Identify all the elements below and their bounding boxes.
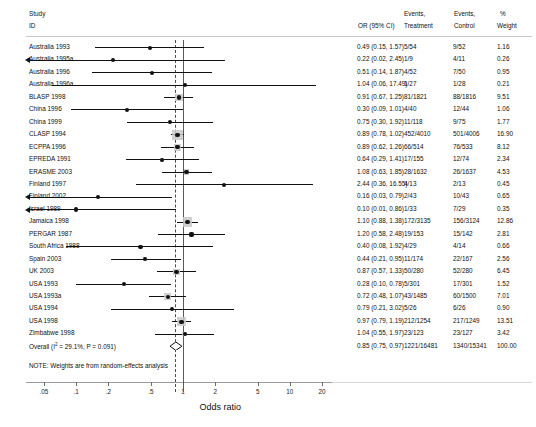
study-events-treatment: 212/1254 [404,317,431,324]
x-tick [76,382,77,386]
x-tick [151,382,152,386]
study-events-control: 7/29 [453,205,465,212]
study-or-ci: 0.79 (0.21, 3.02) [357,304,404,311]
study-label: UK 2003 [29,267,54,274]
study-events-control: 501/4006 [453,130,480,137]
study-events-control: 15/142 [453,230,473,237]
confidence-interval-line [30,60,225,61]
study-weight: 0.66 [497,242,509,249]
point-estimate-marker [183,83,187,87]
study-events-treatment: 4/29 [404,242,416,249]
overall-weight: 100.00 [497,342,517,349]
study-weight: 8.12 [497,143,509,150]
study-label: USA 1993 [29,280,58,287]
point-estimate-marker [179,320,183,324]
study-or-ci: 0.75 (0.30, 1.92) [357,118,404,125]
x-tick [322,382,323,386]
study-weight: 7.01 [497,292,509,299]
study-events-treatment: 5/301 [404,280,420,287]
x-axis-title: Odds ratio [200,402,242,412]
forest-plot-figure: Study ID OR (95% CI) Events, Treatment E… [0,0,536,427]
point-estimate-marker [185,220,189,224]
study-events-control: 156/3124 [453,217,480,224]
study-or-ci: 0.44 (0.21, 0.95) [357,255,404,262]
study-events-treatment: 1/9 [404,55,413,62]
x-tick [290,382,291,386]
study-events-treatment: 452/4010 [404,130,431,137]
study-weight: 1.77 [497,118,509,125]
study-events-treatment: 4/52 [404,68,416,75]
point-estimate-marker [184,170,188,174]
ci-arrow-left [25,207,30,213]
study-or-ci: 1.08 (0.63, 1.85) [357,168,404,175]
study-label: Australia 1996 [29,68,70,75]
overall-events-control: 1340/15341 [453,342,487,349]
study-events-treatment: 66/514 [404,143,424,150]
study-events-control: 2/13 [453,180,465,187]
study-or-ci: 0.22 (0.02, 2.45) [357,55,404,62]
study-label: China 1999 [29,118,62,125]
x-tick-label: .1 [74,388,79,395]
point-estimate-marker [74,207,78,211]
x-tick-label: .5 [148,388,153,395]
study-label: ECPPA 1996 [29,143,66,150]
study-or-ci: 0.89 (0.78, 1.02) [357,130,404,137]
study-events-control: 217/1249 [453,317,480,324]
study-or-ci: 0.51 (0.14, 1.87) [357,68,404,75]
point-estimate-marker [174,270,178,274]
x-tick-label: 20 [318,388,325,395]
study-events-control: 17/301 [453,280,473,287]
ci-arrow-left [25,194,30,200]
study-label: Zimbabwe 1998 [29,329,74,336]
confidence-interval-line [30,209,176,210]
point-estimate-marker [175,133,179,137]
study-events-treatment: 1/27 [404,80,416,87]
point-estimate-marker [111,58,115,62]
x-tick-label: .2 [106,388,111,395]
study-or-ci: 0.97 (0.79, 1.19) [357,317,404,324]
study-or-ci: 0.40 (0.08, 1.92) [357,242,404,249]
study-events-control: 7/50 [453,68,465,75]
study-label: PERGAR 1987 [29,230,72,237]
study-or-ci: 0.64 (0.29, 1.41) [357,155,404,162]
study-or-ci: 0.89 (0.62, 1.26) [357,143,404,150]
study-weight: 0.35 [497,205,509,212]
study-weight: 16.90 [497,130,513,137]
study-weight: 0.26 [497,55,509,62]
overall-events-treatment: 1221/16481 [404,342,438,349]
study-label: Jamaica 1998 [29,217,69,224]
study-or-ci: 0.91 (0.67, 1.25) [357,93,404,100]
study-events-control: 9/75 [453,118,465,125]
study-weight: 0.45 [497,180,509,187]
confidence-interval-line [30,197,172,198]
figure-note: NOTE: Weights are from random-effects an… [29,362,168,369]
study-weight: 0.90 [497,304,509,311]
study-weight: 0.65 [497,192,509,199]
study-events-control: 12/74 [453,155,469,162]
study-or-ci: 0.72 (0.48, 1.07) [357,292,404,299]
point-estimate-marker [183,332,187,336]
study-events-treatment: 11/174 [404,255,423,262]
study-label: USA 1994 [29,304,58,311]
study-weight: 2.56 [497,255,509,262]
study-weight: 6.45 [497,267,509,274]
study-label: BLASP 1998 [29,93,65,100]
x-tick-label: 5 [256,388,260,395]
study-events-control: 4/14 [453,242,465,249]
study-events-treatment: 172/3135 [404,217,431,224]
study-events-treatment: 5/54 [404,43,416,50]
study-label: Finland 1997 [29,180,66,187]
study-events-treatment: 28/1632 [404,168,427,175]
study-or-ci: 1.20 (0.58, 2.48) [357,230,404,237]
x-axis-line [26,382,332,383]
study-events-treatment: 11/118 [404,118,423,125]
point-estimate-marker [150,71,154,75]
x-tick-label: .05 [40,388,49,395]
study-events-control: 9/52 [453,43,465,50]
study-events-treatment: 50/280 [404,267,424,274]
x-tick [258,382,259,386]
study-events-control: 6/26 [453,304,465,311]
study-weight: 12.86 [497,217,513,224]
point-estimate-marker [177,95,181,99]
study-label: ERASME 2003 [29,168,72,175]
